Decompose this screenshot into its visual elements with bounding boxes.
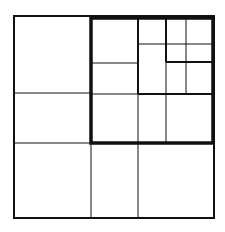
outer-border (14, 16, 214, 218)
highlight-border (91, 18, 213, 143)
medium-subdivision-lines (138, 18, 213, 94)
highlighted-quadrant-border (91, 18, 213, 143)
quadtree-diagram (0, 0, 225, 232)
thin-subdivision-lines (14, 18, 213, 218)
outer-square (14, 16, 214, 218)
